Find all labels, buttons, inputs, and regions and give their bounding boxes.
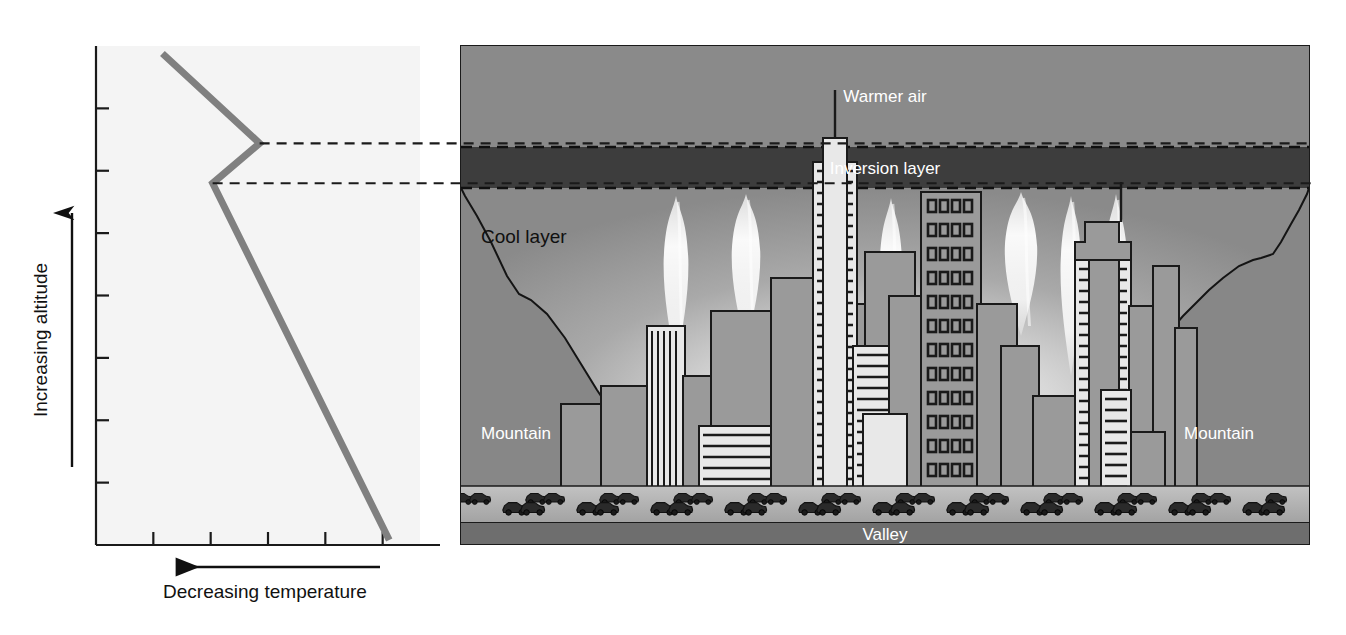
x-axis-arrow-group: Decreasing temperature: [163, 567, 380, 602]
inversion-layer-label: Inversion layer: [830, 159, 941, 178]
mountain-left-label: Mountain: [481, 424, 551, 443]
building-11: [823, 138, 847, 496]
mountain-right-label: Mountain: [1184, 424, 1254, 443]
warmer-air-label: Warmer air: [843, 87, 927, 106]
y-axis-label: Increasing altitude: [30, 263, 51, 417]
building-15: [863, 414, 907, 496]
cool-layer-label: Cool layer: [481, 226, 567, 247]
scene-svg: Warmer air Inversion layer Cool layer Mo…: [461, 46, 1309, 544]
temperature-profile-chart: Increasing altitude Decreasing temperatu…: [0, 0, 460, 635]
chart-svg: Increasing altitude Decreasing temperatu…: [0, 0, 460, 635]
building-3: [601, 386, 653, 496]
figure-root: Increasing altitude Decreasing temperatu…: [0, 0, 1346, 635]
plot-background: [96, 46, 420, 545]
x-axis-label: Decreasing temperature: [163, 581, 367, 602]
valley-label: Valley: [862, 525, 908, 544]
building-24: [1175, 328, 1197, 496]
y-axis-arrow-group: Increasing altitude: [30, 213, 72, 467]
valley-inversion-scene: Warmer air Inversion layer Cool layer Mo…: [460, 45, 1310, 545]
